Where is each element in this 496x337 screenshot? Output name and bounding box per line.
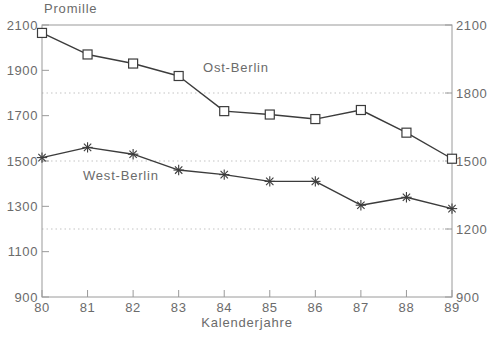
y-axis-title: Promille — [44, 1, 97, 16]
right-axis-tick-label: 2100 — [456, 18, 487, 33]
ost-berlin-line — [42, 33, 452, 159]
right-axis-tick-label: 1500 — [456, 154, 487, 169]
series-label-west-berlin: West-Berlin — [83, 168, 159, 183]
square-marker — [448, 154, 457, 163]
left-axis-tick-label: 1900 — [7, 63, 38, 78]
square-marker — [129, 59, 138, 68]
right-axis-tick-label: 1800 — [456, 86, 487, 101]
square-marker — [174, 72, 183, 81]
line-chart: 2100190017001500130011009002100180015001… — [0, 0, 496, 337]
x-axis-tick-label: 83 — [171, 300, 187, 315]
x-axis-tick-label: 84 — [216, 300, 232, 315]
square-marker — [311, 115, 320, 124]
square-marker — [265, 110, 274, 119]
x-axis-tick-label: 82 — [125, 300, 141, 315]
x-axis-tick-label: 81 — [80, 300, 96, 315]
square-marker — [356, 106, 365, 115]
x-axis-title: Kalenderjahre — [177, 315, 317, 330]
square-marker — [38, 28, 47, 37]
square-marker — [220, 107, 229, 116]
left-axis-tick-label: 1300 — [7, 199, 38, 214]
square-marker — [402, 128, 411, 137]
left-axis-tick-label: 1100 — [8, 244, 38, 259]
x-axis-tick-label: 87 — [353, 300, 369, 315]
series-label-ost-berlin: Ost-Berlin — [203, 60, 269, 75]
left-axis-tick-label: 1700 — [7, 108, 38, 123]
right-axis-tick-label: 1200 — [456, 222, 487, 237]
x-axis-tick-label: 89 — [444, 300, 460, 315]
x-axis-tick-label: 88 — [399, 300, 415, 315]
plot-area: 2100190017001500130011009002100180015001… — [0, 0, 496, 337]
square-marker — [83, 50, 92, 59]
x-axis-tick-label: 85 — [262, 300, 278, 315]
x-axis-tick-label: 80 — [34, 300, 50, 315]
left-axis-tick-label: 1500 — [7, 154, 38, 169]
x-axis-tick-label: 86 — [307, 300, 323, 315]
left-axis-tick-label: 2100 — [7, 18, 38, 33]
